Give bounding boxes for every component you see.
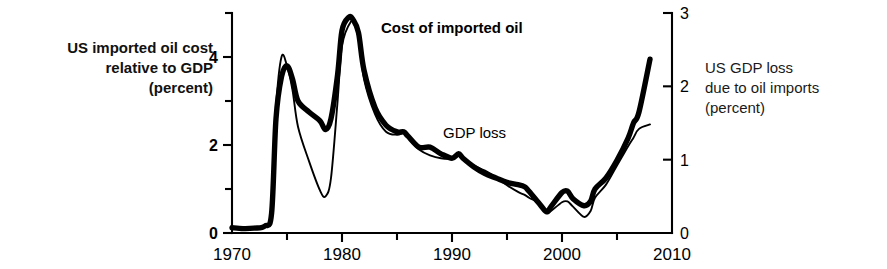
chart-figure: US imported oil cost relative to GDP (pe… <box>0 0 887 269</box>
right-axis-ticks <box>663 13 672 160</box>
left-tick-label: 4 <box>209 49 218 66</box>
x-tick-label: 1980 <box>323 245 361 264</box>
right-tick-label: 0 <box>680 225 689 242</box>
right-tick-label: 1 <box>680 152 689 169</box>
chart-plot-area: 024 0123 19701980199020002010 <box>0 0 887 269</box>
right-axis-tick-labels: 0123 <box>680 5 689 242</box>
right-tick-label: 2 <box>680 78 689 95</box>
left-tick-label: 2 <box>209 137 218 154</box>
bottom-axis-ticks <box>287 233 617 242</box>
x-axis-tick-labels: 19701980199020002010 <box>213 245 691 264</box>
x-tick-label: 2010 <box>653 245 691 264</box>
left-axis-ticks <box>223 13 232 233</box>
x-tick-label: 1990 <box>433 245 471 264</box>
series-line-gdp-loss <box>232 21 650 229</box>
right-tick-label: 3 <box>680 5 689 22</box>
x-tick-label: 2000 <box>543 245 581 264</box>
series-line-cost-of-imported-oil <box>232 17 650 229</box>
left-axis-tick-labels: 024 <box>209 49 218 242</box>
left-tick-label: 0 <box>209 225 218 242</box>
data-series-group <box>232 17 650 229</box>
x-tick-label: 1970 <box>213 245 251 264</box>
